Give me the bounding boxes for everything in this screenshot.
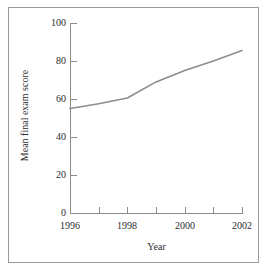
x-axis-label: Year	[70, 241, 243, 252]
series-line	[0, 0, 269, 273]
chart-figure: 100 80 60 40 20 0 1996 1998 2000 2002 Ye…	[0, 0, 269, 273]
plot-area: 100 80 60 40 20 0 1996 1998 2000 2002 Ye…	[0, 0, 269, 273]
y-axis-label: Mean final exam score	[19, 46, 30, 186]
